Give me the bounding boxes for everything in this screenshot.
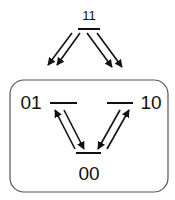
state-label-10: 10	[140, 92, 161, 113]
arrow-11-to-10	[87, 33, 112, 67]
arrow-00-to-10	[107, 110, 129, 149]
state-label-00: 00	[78, 163, 99, 184]
arrow-00-to-01	[55, 110, 75, 149]
arrow-11-to-10	[97, 33, 122, 67]
state-diagram: 11011000	[0, 0, 175, 200]
state-label-11: 11	[82, 8, 96, 23]
arrow-01-to-00	[64, 110, 84, 149]
arrow-10-to-00	[98, 110, 120, 149]
state-label-01: 01	[20, 92, 41, 113]
